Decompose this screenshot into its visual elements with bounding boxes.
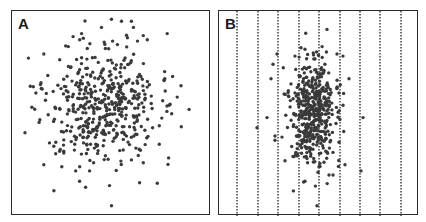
data-point xyxy=(116,43,119,46)
data-point xyxy=(130,88,133,91)
data-point xyxy=(109,58,112,61)
data-point xyxy=(318,80,321,83)
data-point xyxy=(128,100,131,103)
data-point xyxy=(88,42,91,45)
data-point xyxy=(95,133,98,136)
data-point xyxy=(299,87,302,90)
data-point xyxy=(77,85,80,88)
data-point xyxy=(79,105,82,108)
data-point xyxy=(322,140,325,143)
data-point xyxy=(305,76,308,79)
data-point xyxy=(180,125,183,128)
data-point xyxy=(106,84,109,87)
data-point xyxy=(321,72,324,75)
data-point xyxy=(78,133,81,136)
data-point xyxy=(306,53,309,56)
data-point xyxy=(30,106,33,109)
data-point xyxy=(331,131,334,134)
data-point xyxy=(294,68,297,71)
data-point xyxy=(89,88,92,91)
data-point xyxy=(117,97,120,100)
data-point xyxy=(41,87,44,90)
data-point xyxy=(89,143,92,146)
data-point xyxy=(327,112,330,115)
data-point xyxy=(123,66,126,69)
data-point xyxy=(328,133,331,136)
data-point xyxy=(83,19,86,22)
data-point xyxy=(141,78,144,81)
data-point xyxy=(125,45,128,48)
data-point xyxy=(85,152,88,155)
data-point xyxy=(65,75,68,78)
data-point xyxy=(296,147,299,150)
data-point xyxy=(114,76,117,79)
data-point xyxy=(83,92,86,95)
data-point xyxy=(304,93,307,96)
data-point xyxy=(288,105,291,108)
data-point xyxy=(300,152,303,155)
data-point xyxy=(78,180,81,183)
data-point xyxy=(62,92,65,95)
data-point xyxy=(301,81,304,84)
data-point xyxy=(102,93,105,96)
data-point xyxy=(65,96,68,99)
data-point xyxy=(161,99,164,102)
data-point xyxy=(304,103,307,106)
data-point xyxy=(93,102,96,105)
data-point xyxy=(83,96,86,99)
data-point xyxy=(302,77,305,80)
data-point xyxy=(328,105,331,108)
data-point xyxy=(136,97,139,100)
data-point xyxy=(290,145,293,148)
data-point xyxy=(315,50,318,53)
data-point xyxy=(104,105,107,108)
data-point xyxy=(66,112,69,115)
data-point xyxy=(271,63,274,66)
data-point xyxy=(103,79,106,82)
data-point xyxy=(103,158,106,161)
data-point xyxy=(187,108,190,111)
data-point xyxy=(315,90,318,93)
data-point xyxy=(313,68,316,71)
data-point xyxy=(54,141,57,144)
data-point xyxy=(93,85,96,88)
data-point xyxy=(69,130,72,133)
data-point xyxy=(76,72,79,75)
data-point xyxy=(313,126,316,129)
data-point xyxy=(282,92,285,95)
data-point xyxy=(86,67,89,70)
data-point xyxy=(142,89,145,92)
data-point xyxy=(303,71,306,74)
data-point xyxy=(318,152,321,155)
data-point xyxy=(85,143,88,146)
data-point xyxy=(93,76,96,79)
data-point xyxy=(118,149,121,152)
data-point xyxy=(329,123,332,126)
data-point xyxy=(119,75,122,78)
data-point xyxy=(130,136,133,139)
data-point xyxy=(110,87,113,90)
data-point xyxy=(113,108,116,111)
data-point xyxy=(86,148,89,151)
data-point xyxy=(327,116,330,119)
data-point xyxy=(326,108,329,111)
data-point xyxy=(110,18,113,21)
data-point xyxy=(286,91,289,94)
data-point xyxy=(282,66,285,69)
data-point xyxy=(143,129,146,132)
data-point xyxy=(121,82,124,85)
data-point xyxy=(292,189,295,192)
data-point xyxy=(335,79,338,82)
data-point xyxy=(326,182,329,185)
data-point xyxy=(316,129,319,132)
data-point xyxy=(62,143,65,146)
data-point xyxy=(125,81,128,84)
data-point xyxy=(121,125,124,128)
data-point xyxy=(66,124,69,127)
data-point xyxy=(120,131,123,134)
data-point xyxy=(56,84,59,87)
data-point xyxy=(120,100,123,103)
data-point xyxy=(300,142,303,145)
data-point xyxy=(107,124,110,127)
data-point xyxy=(128,143,131,146)
